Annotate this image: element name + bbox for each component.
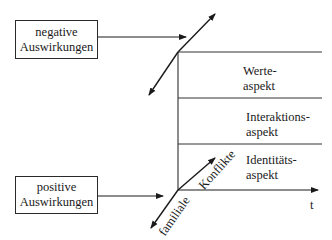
negative-box-line1: negative xyxy=(35,25,77,40)
aspect-werte: Werte- aspekt xyxy=(243,64,277,94)
diagram-canvas: negative Auswirkungen positive Auswirkun… xyxy=(0,0,332,240)
time-axis-label: t xyxy=(310,198,313,213)
positive-effects-box: positive Auswirkungen xyxy=(15,176,98,214)
negative-effects-box: negative Auswirkungen xyxy=(15,20,98,59)
upper-diagonal-arrow xyxy=(178,14,215,52)
positive-box-line1: positive xyxy=(37,180,77,195)
upper-diagonal-arrow-down xyxy=(149,52,178,95)
positive-box-line2: Auswirkungen xyxy=(20,195,94,210)
aspect-identitaet: Identitäts- aspekt xyxy=(246,153,297,183)
aspect-interaktion: Interaktions- aspekt xyxy=(246,110,310,140)
negative-box-line2: Auswirkungen xyxy=(20,40,94,55)
